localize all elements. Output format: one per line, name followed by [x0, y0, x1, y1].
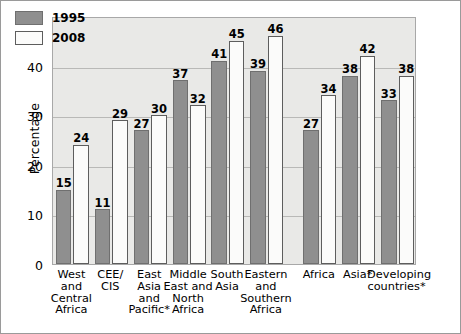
bar-value-label: 32	[190, 94, 206, 106]
bar-value-label: 38	[398, 64, 414, 76]
bar-value-label: 27	[303, 119, 319, 131]
y-axis-tick-label: 0	[13, 258, 43, 273]
bar-1995-1: 11	[95, 209, 111, 264]
bar-1995-0: 15	[56, 190, 72, 264]
bar-2008-0: 24	[73, 145, 89, 264]
bar-value-label: 30	[151, 104, 167, 116]
bar-2008-3: 32	[190, 105, 206, 264]
bar-1995-3: 37	[173, 80, 189, 264]
bar-value-label: 41	[211, 49, 227, 61]
x-axis-label-line: Africa	[236, 304, 295, 316]
bar-group: 2734	[300, 18, 339, 264]
bar-group: 3732	[170, 18, 209, 264]
bar-value-label: 33	[381, 89, 397, 101]
legend-item: 2008	[15, 31, 85, 45]
bar-group: 4145	[209, 18, 248, 264]
bar-value-label: 45	[229, 29, 245, 41]
y-axis-tick-label: 40	[13, 59, 43, 74]
x-axis-label: EasternandSouthernAfrica	[236, 269, 295, 316]
y-axis-tick-label: 20	[13, 158, 43, 173]
bar-value-label: 37	[172, 69, 188, 81]
x-axis-label-line: countries*	[367, 281, 426, 293]
bar-value-label: 11	[95, 198, 111, 210]
bar-1995-7: 38	[342, 76, 358, 264]
bar-group: 1524	[53, 18, 92, 264]
bar-2008-1: 29	[112, 120, 128, 264]
bar-2008-5: 46	[268, 36, 284, 264]
x-axis-label: Developingcountries*	[367, 269, 426, 293]
bar-value-label: 34	[321, 84, 337, 96]
bar-1995-4: 41	[211, 61, 227, 264]
y-axis-tick-label: 30	[13, 109, 43, 124]
bar-1995-2: 27	[134, 130, 150, 264]
bar-value-label: 38	[342, 64, 358, 76]
bar-group: 3338	[378, 18, 417, 264]
legend-item: 1995	[15, 11, 85, 25]
legend-swatch	[15, 11, 43, 25]
bar-value-label: 39	[250, 59, 266, 71]
bar-group: 2730	[131, 18, 170, 264]
bar-group: 3842	[339, 18, 378, 264]
bar-value-label: 46	[268, 24, 284, 36]
chart-legend: 19952008	[15, 11, 85, 51]
bar-2008-7: 42	[360, 56, 376, 264]
bar-2008-2: 30	[151, 115, 167, 264]
bar-1995-8: 33	[381, 100, 397, 264]
bar-chart-figure: Percentage 01020304050 15241129273037324…	[0, 0, 461, 334]
y-axis-tick-label: 10	[13, 208, 43, 223]
bar-group: 1129	[92, 18, 131, 264]
bar-2008-6: 34	[321, 95, 337, 264]
plot-area: 152411292730373241453946273438423338	[52, 17, 416, 265]
x-axis-label-line: Africa	[42, 304, 101, 316]
x-axis-label-line: and	[236, 281, 295, 293]
x-axis-labels: WestandCentralAfricaCEE/CISEastAsiaandPa…	[52, 269, 416, 331]
bar-1995-5: 39	[250, 71, 266, 264]
legend-label: 1995	[52, 12, 85, 24]
legend-swatch	[15, 31, 43, 45]
bar-value-label: 42	[359, 44, 375, 56]
bar-2008-4: 45	[229, 41, 245, 264]
bar-group: 3946	[247, 18, 286, 264]
y-axis-title: Percentage	[27, 59, 42, 219]
bar-value-label: 27	[133, 119, 149, 131]
legend-label: 2008	[52, 32, 85, 44]
bar-2008-8: 38	[399, 76, 415, 264]
bar-value-label: 24	[73, 133, 89, 145]
bar-value-label: 15	[56, 178, 72, 190]
bar-value-label: 29	[112, 109, 128, 121]
x-axis-label-line: Africa	[159, 304, 218, 316]
bar-1995-6: 27	[303, 130, 319, 264]
